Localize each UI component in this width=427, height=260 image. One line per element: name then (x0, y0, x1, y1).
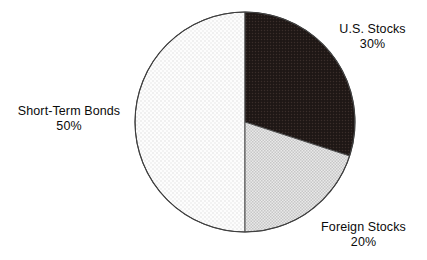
pie-chart-figure: U.S. Stocks 30% Foreign Stocks 20% Short… (0, 0, 427, 260)
pie-label-us-stocks: U.S. Stocks 30% (318, 22, 427, 52)
pie-slice-short-term-bonds[interactable] (135, 12, 245, 232)
pie-label-us-stocks-value: 30% (318, 37, 427, 52)
pie-label-short-term-bonds: Short-Term Bonds 50% (8, 104, 130, 134)
pie-label-short-term-bonds-value: 50% (8, 119, 130, 134)
pie-label-short-term-bonds-name: Short-Term Bonds (8, 104, 130, 119)
pie-label-foreign-stocks: Foreign Stocks 20% (306, 220, 421, 250)
pie-label-foreign-stocks-name: Foreign Stocks (306, 220, 421, 235)
pie-label-foreign-stocks-value: 20% (306, 235, 421, 250)
pie-label-us-stocks-name: U.S. Stocks (318, 22, 427, 37)
